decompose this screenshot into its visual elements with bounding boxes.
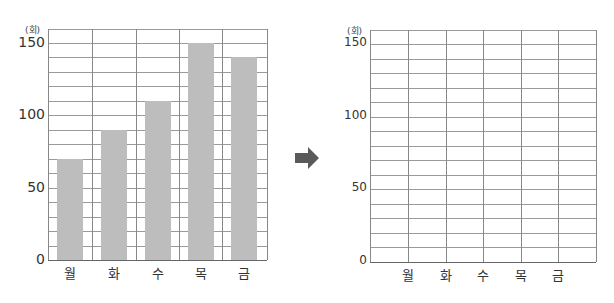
gridline-vertical [92,29,93,260]
gridline [48,29,267,30]
border [267,29,268,260]
gridline-vertical [136,29,137,260]
x-category-label: 수 [468,265,498,284]
x-category-label: 월 [55,263,85,282]
y-unit-label: (회) [347,24,362,37]
bar-목 [188,43,214,260]
gridline-vertical [222,29,223,260]
x-category-label: 금 [229,263,259,282]
bar-화 [101,130,127,260]
y-tick-label: 100 [15,106,45,122]
bar-금 [231,57,257,260]
y-tick-label: 150 [15,34,45,50]
right-arrow-icon [295,146,321,170]
y-unit-label: (회) [25,23,40,36]
x-axis [370,262,596,263]
x-category-label: 목 [506,265,536,284]
gridline-vertical [483,30,484,262]
x-category-label: 화 [431,265,461,284]
x-category-label: 금 [543,265,573,284]
gridline-vertical [408,30,409,262]
y-tick-label: 150 [337,35,367,49]
border [596,30,597,262]
y-tick-label: 50 [15,179,45,195]
y-tick-label: 100 [337,108,367,122]
gridline-vertical [446,30,447,262]
x-category-label: 월 [393,265,423,284]
y-axis [370,30,371,262]
x-category-label: 수 [143,263,173,282]
y-tick-label: 50 [337,180,367,194]
y-tick-label: 0 [15,251,45,267]
bar-월 [57,159,83,260]
bar-수 [145,101,171,260]
y-axis [48,29,49,260]
gridline-vertical [558,30,559,262]
gridline-vertical [179,29,180,260]
x-axis [48,260,267,261]
x-category-label: 목 [186,263,216,282]
gridline-vertical [521,30,522,262]
gridline [48,43,267,44]
x-category-label: 화 [99,263,129,282]
y-tick-label: 0 [337,253,367,267]
